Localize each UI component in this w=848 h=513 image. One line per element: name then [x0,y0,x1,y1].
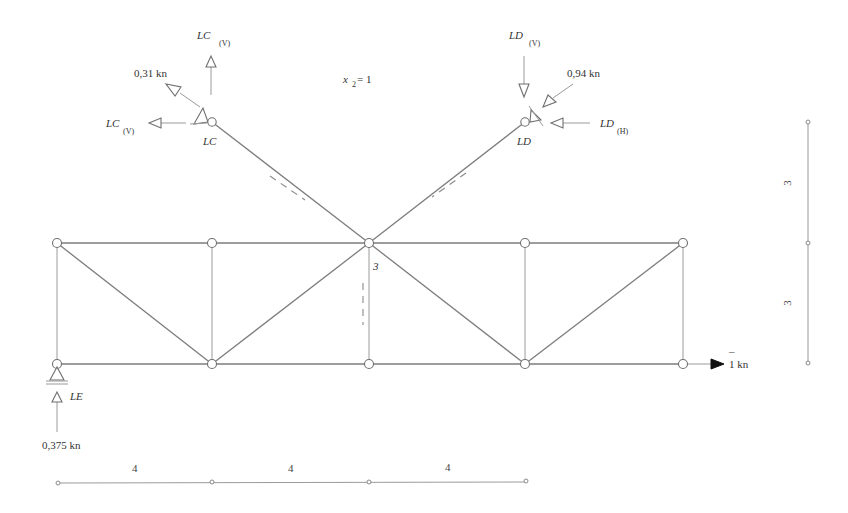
arrow-up-icon [206,56,216,67]
equation-rest: = 1 [357,73,371,85]
label-ld-h-sub: (H) [617,127,628,136]
member-ld-3 [369,122,525,243]
member-lc-3 [212,122,369,243]
arrow-left-icon [149,118,161,128]
label-ld-h: LD [599,117,614,129]
joint-label-3: 3 [372,260,379,272]
pin-support-le-icon [50,367,64,380]
load-label: 1 kn [729,358,749,370]
dim-tick-v-1 [806,120,810,124]
diagonal-2 [212,243,369,364]
node-bottom-5 [679,360,688,369]
node-3 [365,239,374,248]
dim-label-h-2: 4 [288,462,294,474]
label-le: LE [69,390,83,402]
dim-label-h-3: 4 [445,461,451,473]
support-ld [521,106,543,126]
node-top-1 [53,239,62,248]
label-lc-v: LC [196,29,211,41]
label-lc-force: 0,31 kn [134,67,168,79]
arrow-inclined-icon [166,84,181,96]
arrow-down-icon [519,84,529,97]
label-lc-v-sub: (V) [219,39,230,48]
node-bottom-4 [521,360,530,369]
dim-tick-h-4 [524,479,528,483]
dim-label-v-2: 3 [781,300,793,306]
dimension-line-horizontal [58,482,526,483]
node-bottom-2 [208,360,217,369]
support-base-lc [190,123,207,124]
label-ld-v: LD [508,29,523,41]
arrow-left-ld-icon [551,118,563,128]
support-le [46,367,68,384]
node-lc [208,118,216,126]
dim-tick-v-2 [806,241,810,245]
equation-sub: 2 [352,80,356,89]
node-bottom-3 [365,360,374,369]
label-le-force: 0,375 kn [42,439,81,451]
dim-tick-h-1 [56,481,60,485]
dashed-marker-right [432,173,466,197]
diagonal-3 [369,243,525,364]
ld-inclined-arrow-shaft [553,84,573,98]
label-lc-h: LC [105,117,120,129]
diagonal-1 [57,243,212,364]
lc-inclined-arrow-shaft [180,93,200,107]
dim-label-h-1: 4 [132,462,138,474]
diagonal-4 [525,243,683,364]
dim-tick-v-3 [806,361,810,365]
dim-tick-h-3 [367,480,371,484]
truss-diagram: 3 x 2 = 1 LC LC (V) 0,31 kn LC (V) LD LD… [0,0,848,513]
pin-support-lc-icon [194,108,208,124]
dim-tick-h-2 [210,480,214,484]
arrow-right-solid-icon [711,359,724,369]
label-ld-force: 0,94 kn [567,67,601,79]
label-lc-h-sub: (V) [123,127,134,136]
equation-var: x [342,73,348,85]
dim-label-v-1: 3 [781,180,793,186]
support-lc [190,108,216,126]
node-ld [521,118,529,126]
node-top-5 [679,239,688,248]
node-top-2 [208,239,217,248]
label-ld: LD [516,135,531,147]
label-ld-v-sub: (V) [529,39,540,48]
node-top-4 [521,239,530,248]
arrow-up-le-icon [52,392,62,402]
label-lc: LC [202,135,217,147]
